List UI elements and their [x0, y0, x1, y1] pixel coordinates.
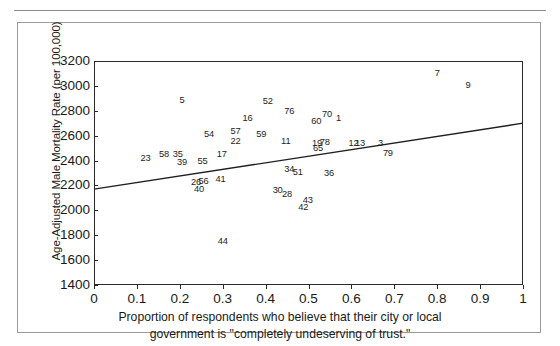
- data-point-label: 9: [466, 80, 471, 89]
- y-axis-tick-label: 1800: [50, 228, 90, 241]
- y-axis-tick-mark: [94, 86, 98, 87]
- x-axis-tick-label: 0.5: [289, 291, 329, 306]
- x-axis-title-line-1: Proportion of respondents who believe th…: [58, 309, 502, 326]
- data-point-label: 70: [322, 109, 332, 118]
- data-point-label: 52: [263, 96, 273, 105]
- x-axis-tick-label: 0: [74, 291, 114, 306]
- x-axis-tick-mark: [480, 285, 481, 289]
- data-point-label: 58: [159, 150, 169, 159]
- y-axis-tick-label: 1400: [50, 278, 90, 291]
- y-axis-tick-mark: [94, 111, 98, 112]
- x-axis-tick-mark: [180, 285, 181, 289]
- x-axis-tick-label: 0.6: [331, 291, 371, 306]
- data-point-label: 16: [243, 113, 253, 122]
- x-axis-tick-mark: [94, 285, 95, 289]
- y-axis-tick-label: 3000: [50, 79, 90, 92]
- x-axis-tick-label: 1: [503, 291, 543, 306]
- x-axis-tick-label: 0.3: [203, 291, 243, 306]
- trendline: [94, 61, 523, 285]
- page-divider-rule: [14, 10, 546, 11]
- data-point-label: 42: [298, 202, 308, 211]
- y-axis-tick-mark: [94, 185, 98, 186]
- data-point-label: 79: [383, 149, 393, 158]
- x-axis-tick-label: 0.8: [417, 291, 457, 306]
- data-point-label: 57: [231, 126, 241, 135]
- plot-area: 5527976167016054575922111978651213317235…: [94, 61, 523, 285]
- x-axis-tick-label: 0.9: [460, 291, 500, 306]
- data-point-label: 40: [194, 184, 204, 193]
- data-point-label: 41: [216, 174, 226, 183]
- data-point-label: 13: [355, 139, 365, 148]
- data-point-label: 54: [204, 129, 214, 138]
- y-axis-tick-mark: [94, 235, 98, 236]
- x-axis-tick-mark: [223, 285, 224, 289]
- data-point-label: 3: [378, 139, 383, 148]
- x-axis-tick-mark: [266, 285, 267, 289]
- figure-container: Age-Adjusted Male Mortality Rate (per 10…: [17, 22, 541, 333]
- x-axis-tick-mark: [351, 285, 352, 289]
- data-point-label: 39: [177, 157, 187, 166]
- data-point-label: 59: [256, 129, 266, 138]
- y-axis-tick-label: 3200: [50, 54, 90, 67]
- x-axis-tick-label: 0.4: [246, 291, 286, 306]
- y-axis-tick-label: 1600: [50, 253, 90, 266]
- data-point-label: 76: [284, 106, 294, 115]
- x-axis-title-line-2: government is "completely undeserving of…: [58, 326, 502, 343]
- data-point-label: 36: [324, 169, 334, 178]
- data-point-label: 28: [282, 189, 292, 198]
- data-point-label: 17: [217, 150, 227, 159]
- y-axis-tick-labels: 1400160018002000220024002600280030003200: [44, 61, 90, 285]
- x-axis-tick-mark: [437, 285, 438, 289]
- data-point-label: 22: [231, 137, 241, 146]
- y-axis-tick-mark: [94, 136, 98, 137]
- y-axis-tick-label: 2600: [50, 129, 90, 142]
- data-point-label: 65: [313, 144, 323, 153]
- data-point-label: 44: [218, 237, 228, 246]
- y-axis-tick-label: 2800: [50, 104, 90, 117]
- y-axis-tick-label: 2000: [50, 203, 90, 216]
- y-axis-tick-label: 2200: [50, 178, 90, 191]
- data-point-label: 55: [198, 157, 208, 166]
- data-point-label: 5: [179, 95, 184, 104]
- data-point-label: 7: [435, 69, 440, 78]
- y-axis-tick-mark: [94, 161, 98, 162]
- data-point-label: 51: [293, 168, 303, 177]
- x-axis-tick-label: 0.1: [117, 291, 157, 306]
- data-point-label: 60: [311, 116, 321, 125]
- data-point-label: 1: [336, 114, 341, 123]
- data-point-label: 23: [140, 154, 150, 163]
- y-axis-tick-mark: [94, 61, 98, 62]
- x-axis-tick-mark: [394, 285, 395, 289]
- x-axis-title: Proportion of respondents who believe th…: [58, 309, 502, 343]
- y-axis-tick-label: 2400: [50, 154, 90, 167]
- data-point-label: 11: [281, 136, 290, 145]
- y-axis-tick-mark: [94, 260, 98, 261]
- x-axis-tick-mark: [309, 285, 310, 289]
- x-axis-tick-mark: [137, 285, 138, 289]
- y-axis-tick-mark: [94, 210, 98, 211]
- x-axis-tick-label: 0.2: [160, 291, 200, 306]
- x-axis-tick-mark: [523, 285, 524, 289]
- x-axis-tick-label: 0.7: [374, 291, 414, 306]
